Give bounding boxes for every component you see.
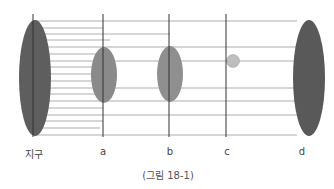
a-ellipse <box>91 47 117 103</box>
c-circle <box>227 55 240 68</box>
label-d: d <box>299 146 305 157</box>
label-b: b <box>167 146 173 157</box>
earth-ellipse <box>19 20 51 136</box>
diagram <box>0 0 334 189</box>
figure-caption: (그림 18-1) <box>142 167 194 182</box>
b-ellipse <box>157 46 183 102</box>
label-a: a <box>100 146 106 157</box>
label-c: c <box>224 146 230 157</box>
label-earth: 지구 <box>25 146 43 161</box>
d-ellipse <box>293 20 325 136</box>
vertical-lines <box>33 14 226 137</box>
